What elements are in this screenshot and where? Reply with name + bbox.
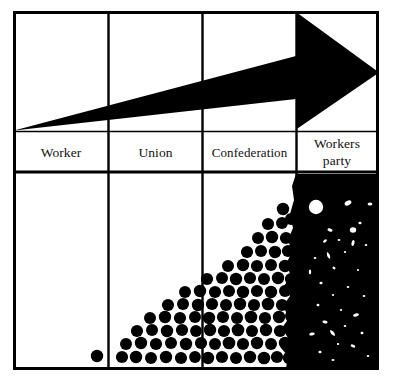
column-label-worker: Worker (14, 132, 108, 172)
column-label-confederation: Confederation (203, 132, 296, 172)
growth-arrow (14, 12, 379, 131)
column-label-union: Union (109, 132, 202, 172)
diagram-canvas (0, 0, 396, 381)
column-label-workers-party: Workers party (297, 132, 377, 172)
dot-cloud (91, 174, 376, 368)
progression-diagram: Worker Union Confederation Workers party (0, 0, 396, 381)
